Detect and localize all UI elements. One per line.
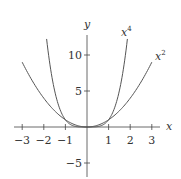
x-tick-label: 1 [105, 134, 112, 147]
x-axis-label: x [166, 120, 173, 133]
y-tick-label: −5 [66, 157, 82, 170]
y-axis-label: y [83, 18, 91, 31]
label-x-squared: x2 [155, 49, 166, 63]
y-tick-label: 5 [75, 85, 82, 98]
x-tick-label: 2 [127, 134, 134, 147]
label-x-fourth: x4 [121, 25, 132, 39]
x-tick-label: −1 [57, 134, 73, 147]
y-tick-label: 10 [68, 49, 82, 62]
x-tick-label: −3 [14, 134, 30, 147]
chart: −3 −2 −1 1 2 3 10 5 −5 x y x4 x2 [0, 0, 181, 179]
x-tick-label: −2 [35, 134, 51, 147]
x-tick-label: 3 [148, 134, 155, 147]
